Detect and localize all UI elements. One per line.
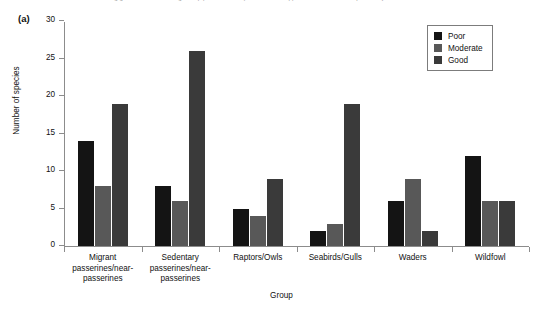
bar [344, 104, 360, 247]
panel-label: (a) [18, 13, 30, 24]
x-axis-category-label: Sedentarypasserines/near-passerines [136, 253, 226, 285]
x-axis-category-label: Migrantpasserines/near-passerines [58, 253, 148, 285]
x-axis-category-label-line: Wildfowl [446, 253, 536, 264]
legend-swatch-icon [434, 56, 442, 64]
bar [327, 224, 343, 247]
x-axis-tick-6 [529, 247, 530, 252]
figure-panel-a: …g g…… … ………… …g… … p p…… …… … (… … … … … [0, 0, 541, 316]
y-axis-tick-label-0: 0 [50, 240, 55, 249]
bar [388, 201, 404, 246]
legend-label: Poor [448, 32, 465, 41]
bar [310, 231, 326, 246]
x-axis-category-label-line: passerines/near- [136, 264, 226, 275]
x-axis-tick-2 [219, 247, 220, 252]
y-axis-tick-label-10: 10 [46, 165, 55, 174]
legend-swatch-icon [434, 32, 442, 40]
y-axis-tick-label-30: 30 [46, 15, 55, 24]
legend-swatch-icon [434, 44, 442, 52]
x-axis-category-label-line: passerines/near- [58, 264, 148, 275]
x-axis-category-label: Wildfowl [446, 253, 536, 264]
figure-caption-text: …g g…… … ………… …g… … p p…… …… … (… … … … … [108, 0, 538, 1]
x-axis-title-text: Group [270, 291, 293, 300]
x-axis-category-label-line: Migrant [58, 253, 148, 264]
y-axis-tick-label-20: 20 [46, 90, 55, 99]
bar [405, 179, 421, 247]
bar [250, 216, 266, 246]
legend-item-good: Good [434, 54, 483, 66]
x-axis-category-label-line: Raptors/Owls [213, 253, 303, 264]
x-axis-category-label: Seabirds/Gulls [291, 253, 381, 264]
bar [172, 201, 188, 246]
x-axis-category-label: Waders [368, 253, 458, 264]
x-axis-tick-5 [452, 247, 453, 252]
bar [95, 186, 111, 246]
bar [189, 51, 205, 246]
y-axis-tick-5: 5 [59, 208, 64, 209]
y-axis-tick-label-15: 15 [46, 128, 55, 137]
legend-item-moderate: Moderate [434, 42, 483, 54]
y-axis-tick-label-25: 25 [46, 53, 55, 62]
x-axis-category-label-line: Waders [368, 253, 458, 264]
bar [155, 186, 171, 246]
x-axis-category-label-line: Sedentary [136, 253, 226, 264]
x-axis-tick-0 [64, 247, 65, 252]
legend-item-poor: Poor [434, 30, 483, 42]
bar [482, 201, 498, 246]
x-axis-category-label: Raptors/Owls [213, 253, 303, 264]
bar [465, 156, 481, 246]
x-axis-title: Group [0, 291, 541, 300]
legend-label: Good [448, 56, 468, 65]
y-axis-line [64, 22, 65, 247]
x-axis-tick-1 [142, 247, 143, 252]
x-axis-tick-4 [374, 247, 375, 252]
figure-caption-strip: …g g…… … ………… …g… … p p…… …… … (… … … … … [0, 0, 541, 7]
y-axis-tick-30: 30 [59, 20, 64, 21]
y-axis-tick-25: 25 [59, 58, 64, 59]
y-axis-title: Number of species [12, 51, 21, 151]
x-axis-category-label-line: Seabirds/Gulls [291, 253, 381, 264]
bar [267, 179, 283, 247]
legend-label: Moderate [448, 44, 483, 53]
x-axis-category-label-line: passerines [136, 274, 226, 285]
bar [233, 209, 249, 247]
y-axis-tick-20: 20 [59, 95, 64, 96]
bar [78, 141, 94, 246]
x-axis-category-label-line: passerines [58, 274, 148, 285]
y-axis-tick-15: 15 [59, 133, 64, 134]
bar [422, 231, 438, 246]
bar [112, 104, 128, 247]
chart-legend: PoorModerateGood [427, 25, 493, 71]
y-axis-tick-0: 0 [59, 245, 64, 246]
x-axis-tick-3 [297, 247, 298, 252]
y-axis-tick-label-5: 5 [50, 203, 55, 212]
bar [499, 201, 515, 246]
y-axis-tick-10: 10 [59, 170, 64, 171]
